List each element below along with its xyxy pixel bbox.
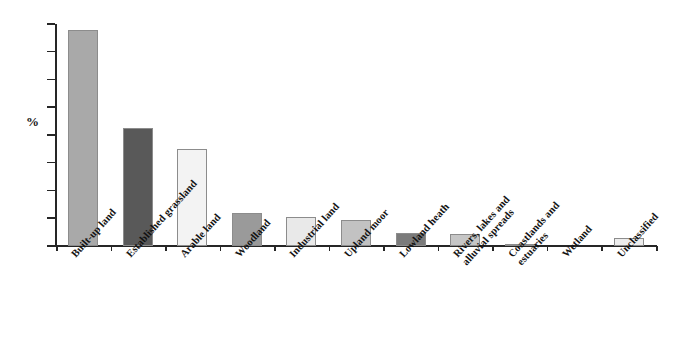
x-tick-mark	[220, 246, 222, 251]
y-tick-mark	[47, 245, 55, 247]
x-tick-mark	[601, 246, 603, 251]
x-tick-mark	[165, 246, 167, 251]
y-tick-mark	[47, 134, 55, 136]
x-tick-mark	[111, 246, 113, 251]
y-tick-mark	[47, 23, 55, 25]
bar-fill	[68, 30, 98, 246]
x-tick-mark	[547, 246, 549, 251]
x-tick-mark	[383, 246, 385, 251]
x-tick-mark	[438, 246, 440, 251]
x-tick-mark	[492, 246, 494, 251]
y-tick-mark	[47, 79, 55, 81]
y-tick-mark	[47, 217, 55, 219]
y-tick-mark	[47, 162, 55, 164]
x-tick-mark	[274, 246, 276, 251]
x-tick-mark	[56, 246, 58, 251]
bar-chart: % 0510152025303540 Built-up landEstablis…	[0, 0, 685, 364]
y-tick-mark	[47, 106, 55, 108]
x-tick-mark	[329, 246, 331, 251]
y-axis-title: %	[26, 114, 39, 130]
y-tick-mark	[47, 190, 55, 192]
bar	[68, 30, 98, 246]
y-tick-mark	[47, 51, 55, 53]
x-tick-mark	[656, 246, 658, 251]
